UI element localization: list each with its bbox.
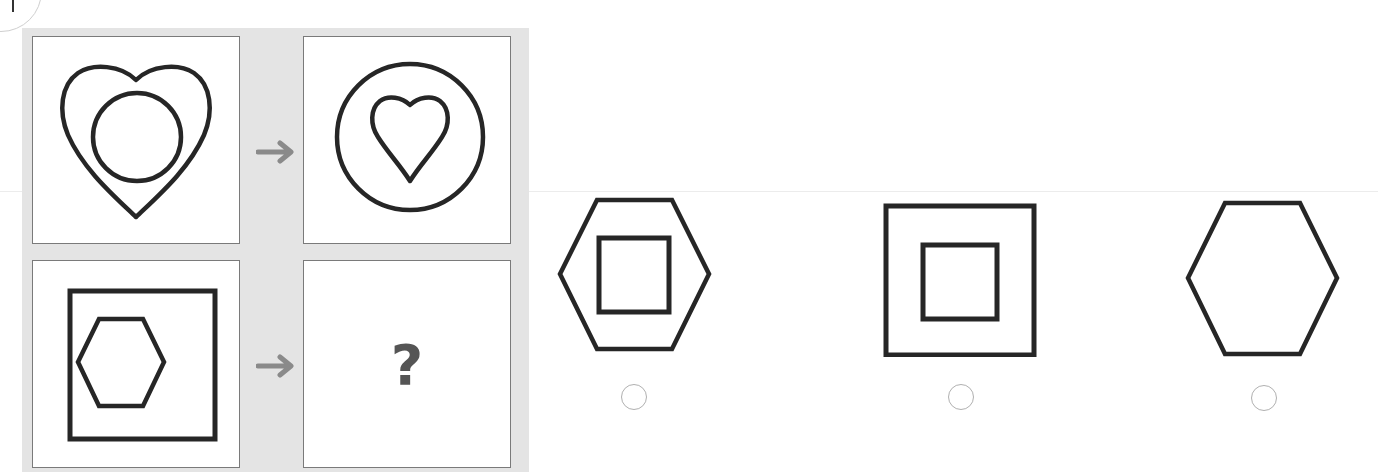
arrow-right-icon [256,140,296,164]
option-1[interactable] [557,197,713,357]
puzzle-panel: ? [22,28,529,472]
heart-circle-figure [33,37,241,245]
option-3-radio[interactable] [1251,385,1277,411]
square-hexagon-figure [33,261,241,469]
cell-answer-unknown: ? [303,260,511,468]
hexagon-square-figure [557,197,713,353]
option-1-radio[interactable] [621,384,647,410]
hexagon-figure [1185,200,1341,358]
corner-mark [12,0,14,12]
cell-square-with-hexagon [32,260,240,468]
square-square-figure [883,203,1037,357]
cell-heart-with-circle [32,36,240,244]
question-mark: ? [304,261,510,467]
arrow-right-icon [256,354,296,378]
option-2[interactable] [883,203,1037,361]
cell-circle-with-heart [303,36,511,244]
circle-heart-figure [304,37,512,245]
option-3[interactable] [1185,200,1341,362]
option-2-radio[interactable] [948,384,974,410]
